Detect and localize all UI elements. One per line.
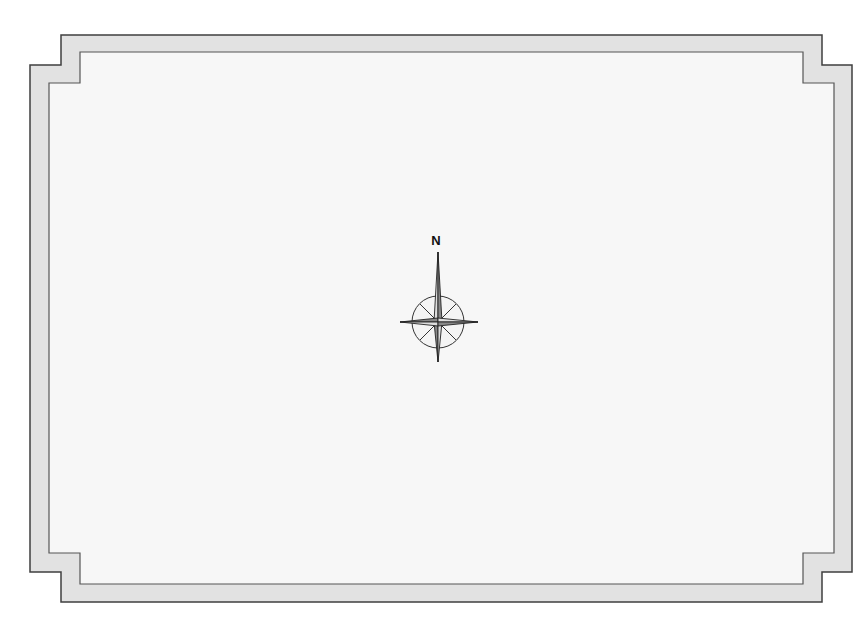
compass-rose-icon: N: [398, 230, 488, 370]
north-label: N: [431, 233, 440, 248]
